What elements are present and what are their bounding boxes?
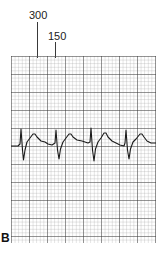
figure-label: B [1, 232, 10, 244]
grid-paper [11, 56, 156, 243]
ecg-strip [0, 0, 165, 257]
